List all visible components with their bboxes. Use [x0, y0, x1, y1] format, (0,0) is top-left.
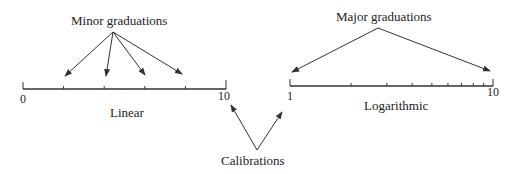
log-end-label: 10 [487, 85, 499, 99]
minor-arrow-icon [113, 32, 182, 74]
calibrations-arrow-icon [231, 105, 257, 150]
major-graduations-label: Major graduations [336, 9, 432, 24]
linear-start-label: 0 [20, 92, 26, 106]
logarithmic-label: Logarithmic [364, 98, 428, 113]
calibrations-arrow-icon [257, 112, 282, 150]
log-start-label: 1 [287, 89, 293, 103]
linear-scale [23, 80, 226, 89]
minor-graduations-label: Minor graduations [71, 13, 167, 28]
minor-arrow-icon [106, 32, 113, 76]
major-arrow-icon [292, 28, 378, 72]
minor-arrow-icon [65, 32, 113, 76]
scales-diagram: Minor graduations Major graduations Line… [0, 0, 522, 174]
calibrations-label: Calibrations [221, 153, 285, 168]
minor-arrow-icon [113, 32, 145, 75]
major-arrow-icon [378, 28, 490, 71]
logarithmic-scale [290, 79, 493, 86]
linear-label: Linear [110, 105, 145, 120]
linear-end-label: 10 [218, 89, 230, 103]
